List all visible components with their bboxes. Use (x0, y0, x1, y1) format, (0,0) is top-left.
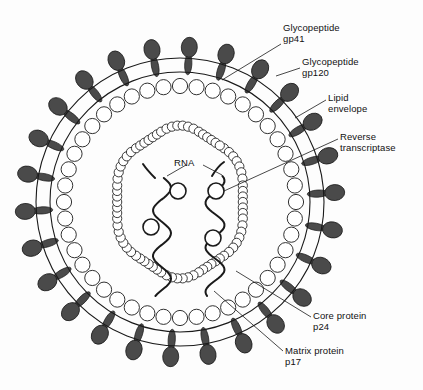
matrix-protein-bead (172, 310, 187, 325)
matrix-protein-bead (205, 306, 220, 321)
gp120-head (123, 338, 144, 362)
gp120-head (316, 145, 340, 166)
label-reverse-transcriptase: Reverse transcriptase (340, 131, 396, 153)
envelope-spike (307, 184, 345, 201)
matrix-protein-bead (284, 227, 299, 242)
envelope-spike (123, 323, 145, 362)
matrix-protein-bead (85, 270, 100, 285)
matrix-protein-bead (156, 309, 171, 324)
matrix-protein-bead (124, 89, 139, 104)
gp120-head (15, 203, 36, 220)
matrix-protein-bead (288, 194, 303, 209)
matrix-protein-bead (56, 194, 71, 209)
matrix-protein-bead (248, 282, 263, 297)
matrix-protein-bead (284, 162, 299, 177)
envelope-spike (15, 203, 53, 220)
matrix-protein-bead (61, 227, 76, 242)
matrix-protein-bead (140, 306, 155, 321)
rna-strand-tail (143, 164, 155, 178)
matrix-protein-bead (58, 211, 73, 226)
matrix-protein-bead (75, 132, 90, 147)
matrix-protein-bead (235, 292, 250, 307)
core-protein-capsid-ring (113, 121, 248, 283)
matrix-protein-bead (278, 146, 293, 161)
matrix-protein-bead (75, 257, 90, 272)
matrix-protein-bead (205, 83, 220, 98)
reverse-transcriptase-enzyme (143, 219, 159, 235)
matrix-protein-bead (156, 80, 171, 95)
envelope-spike (45, 94, 82, 126)
matrix-protein-bead (270, 132, 285, 147)
envelope-spike (243, 57, 272, 95)
matrix-protein-bead (287, 211, 302, 226)
leader-gp120 (276, 68, 300, 76)
matrix-protein-bead (61, 162, 76, 177)
matrix-protein-bead (110, 97, 125, 112)
matrix-protein-bead (140, 83, 155, 98)
envelope-spike (20, 237, 59, 259)
envelope-spike (58, 290, 93, 325)
matrix-protein-bead (96, 107, 111, 122)
envelope-spike (305, 220, 344, 239)
gp120-head (16, 164, 39, 183)
label-gp41: Glycopeptide gp41 (283, 22, 340, 44)
matrix-protein-bead (221, 89, 236, 104)
envelope-spike (72, 67, 104, 104)
matrix-protein-bead (58, 178, 73, 193)
gp120-head (162, 346, 179, 367)
envelope-spike (162, 329, 179, 367)
matrix-protein-bead (124, 300, 139, 315)
matrix-protein-bead (260, 118, 275, 133)
envelope-spike (268, 80, 303, 115)
label-rna: RNA (174, 157, 194, 168)
matrix-protein-bead (67, 146, 82, 161)
matrix-protein-bead (110, 292, 125, 307)
matrix-protein-bead (189, 80, 204, 95)
matrix-protein-bead (96, 282, 111, 297)
matrix-protein-bead (189, 309, 204, 324)
envelope-spike (142, 38, 161, 77)
core-protein-bead (215, 141, 224, 150)
matrix-protein-bead (235, 97, 250, 112)
label-core-protein: Core protein p24 (313, 310, 366, 332)
envelope-spike (181, 37, 198, 75)
reverse-transcriptase-enzyme (205, 230, 221, 246)
label-matrix-protein: Matrix protein p17 (285, 345, 344, 367)
envelope-spike (278, 278, 315, 310)
envelope-spike (287, 110, 325, 139)
label-lipid-envelope: Lipid envelope (328, 92, 367, 114)
gp120-head (181, 37, 198, 58)
matrix-protein-bead (248, 107, 263, 122)
matrix-protein-bead (287, 178, 302, 193)
matrix-protein-bead (85, 118, 100, 133)
envelope-spike (198, 327, 217, 366)
gp120-head (20, 238, 44, 259)
rna-strand-tail (212, 162, 224, 176)
label-gp120: Glycopeptide gp120 (302, 56, 359, 78)
envelope-spike (88, 309, 117, 347)
gp120-head (215, 42, 236, 66)
reverse-transcriptase-enzyme (208, 183, 224, 199)
envelope-spike (301, 145, 340, 167)
gp120-head (142, 38, 161, 61)
reverse-transcriptase-enzyme (170, 183, 186, 199)
gp120-head (321, 220, 344, 239)
matrix-protein-bead (270, 257, 285, 272)
gp120-head (198, 343, 217, 366)
matrix-protein-bead (172, 78, 187, 93)
matrix-protein-bead (260, 270, 275, 285)
matrix-protein-bead (278, 243, 293, 258)
envelope-spike (16, 164, 55, 183)
envelope-spike (214, 42, 236, 81)
envelope-spike (35, 265, 73, 294)
matrix-protein-bead (67, 243, 82, 258)
matrix-protein-ring (56, 78, 303, 325)
diagram-canvas: Glycopeptide gp41 Glycopeptide gp120 Lip… (0, 0, 423, 390)
gp120-head (324, 184, 345, 201)
